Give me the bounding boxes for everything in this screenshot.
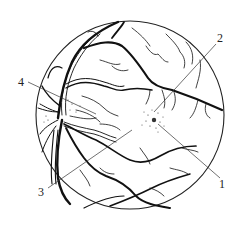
label-4: 4 — [18, 75, 24, 89]
leader-line-3 — [48, 130, 132, 188]
leader-line-2 — [154, 44, 216, 112]
fovea-spot — [152, 118, 156, 122]
label-2: 2 — [217, 31, 223, 45]
blood-vessels — [38, 22, 222, 208]
label-1: 1 — [219, 177, 225, 191]
leader-line-1 — [158, 124, 220, 178]
leader-line-4 — [28, 82, 96, 114]
fundus-diagram: 2 4 3 1 — [0, 0, 237, 225]
fundus-outline — [36, 21, 224, 209]
label-3: 3 — [38, 185, 44, 199]
